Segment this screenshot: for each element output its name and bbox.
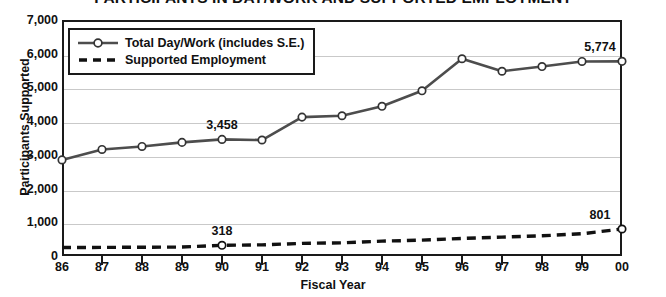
data-point-marker: [618, 58, 625, 65]
data-point-marker: [258, 136, 265, 143]
data-point-label: 801: [590, 208, 611, 222]
data-point-marker: [578, 58, 585, 65]
legend-key-dashed-icon: [77, 53, 119, 67]
data-point-marker: [138, 143, 145, 150]
legend-item-total-day-work: Total Day/Work (includes S.E.): [77, 34, 304, 51]
data-point-marker: [298, 113, 305, 120]
data-point-label: 318: [212, 224, 233, 238]
data-point-marker: [218, 136, 225, 143]
data-point-marker: [98, 146, 105, 153]
data-point-marker: [218, 242, 225, 249]
data-point-label: 3,458: [206, 118, 237, 132]
data-point-marker: [538, 63, 545, 70]
data-point-marker: [58, 156, 65, 163]
series-line-supported-employment: [62, 229, 622, 248]
data-point-marker: [418, 87, 425, 94]
data-point-marker: [338, 112, 345, 119]
legend-item-supported-employment: Supported Employment: [77, 51, 304, 68]
legend-label-total-day-work: Total Day/Work (includes S.E.): [125, 36, 304, 50]
legend-key-solid-circle-icon: [77, 36, 119, 50]
data-point-marker: [458, 55, 465, 62]
data-point-marker: [178, 139, 185, 146]
data-point-label: 5,774: [584, 40, 615, 54]
legend-label-supported-employment: Supported Employment: [125, 53, 266, 67]
data-point-marker: [498, 68, 505, 75]
chart-container: PARTICIPANTS IN DAY/WORK AND SUPPORTED E…: [0, 0, 666, 297]
chart-legend: Total Day/Work (includes S.E.) Supported…: [68, 28, 315, 75]
data-point-marker: [618, 225, 625, 232]
data-point-marker: [378, 103, 385, 110]
